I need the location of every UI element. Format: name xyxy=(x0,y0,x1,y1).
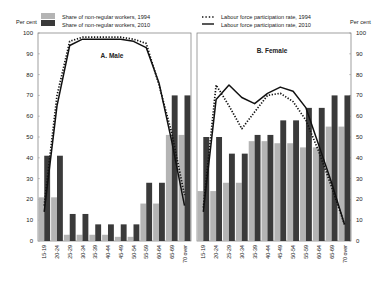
x-tick-label: 60-64 xyxy=(156,245,162,259)
legend-label-bars-1994: Share of non-regular workers, 1994 xyxy=(62,14,150,20)
bar-1994 xyxy=(262,141,268,241)
bar-1994 xyxy=(236,183,242,241)
y-tick-label: 20 xyxy=(26,196,33,202)
right-axis-unit: Per cent xyxy=(350,19,371,25)
x-tick-label: 40-44 xyxy=(105,245,111,259)
bar-2010 xyxy=(108,224,114,241)
right-y-axis-ticks: 0102030405060708090100 xyxy=(349,30,367,244)
panel-female-x-axis-labels: 15-1920-2425-2930-3435-3940-4445-4950-54… xyxy=(200,245,347,263)
panel-female: 15-1920-2425-2930-3435-3940-4445-4950-54… xyxy=(197,33,351,263)
bar-2010 xyxy=(280,120,286,241)
bar-1994 xyxy=(77,235,83,241)
bar-2010 xyxy=(95,224,101,241)
x-tick-label: 40-44 xyxy=(265,245,271,259)
y-tick-label: 30 xyxy=(26,176,33,182)
bar-2010 xyxy=(159,183,165,241)
bar-1994 xyxy=(115,237,121,241)
y-tick-label: 60 xyxy=(356,113,363,119)
bar-1994 xyxy=(300,147,306,241)
bar-2010 xyxy=(184,95,190,241)
bar-1994 xyxy=(89,235,95,241)
x-tick-label: 35-39 xyxy=(92,245,98,259)
line-1994-dotted xyxy=(44,37,184,205)
bar-2010 xyxy=(344,95,350,241)
bar-2010 xyxy=(293,120,299,241)
y-tick-label: 70 xyxy=(26,92,33,98)
x-tick-label: 30-34 xyxy=(239,245,245,259)
bar-1994 xyxy=(210,191,216,241)
bar-1994 xyxy=(274,143,280,241)
bar-1994 xyxy=(102,235,108,241)
legend-swatch-bars-1994 xyxy=(41,13,55,19)
panel-male-bars xyxy=(38,95,190,241)
bar-1994 xyxy=(197,191,203,241)
panel-male: 15-1920-2425-2930-3435-3940-4445-4950-54… xyxy=(38,33,191,263)
y-tick-label: 40 xyxy=(356,155,363,161)
bar-2010 xyxy=(242,154,248,241)
legend-label-bars-2010: Share of non-regular workers, 2010 xyxy=(62,22,150,28)
y-tick-label: 0 xyxy=(30,238,34,244)
x-tick-label: 65-69 xyxy=(169,245,175,259)
legend: Share of non-regular workers, 1994 Share… xyxy=(41,13,311,28)
panel-male-x-axis-labels: 15-1920-2425-2930-3435-3940-4445-4950-54… xyxy=(41,245,187,263)
bar-1994 xyxy=(166,135,172,241)
left-axis-unit: Per cent xyxy=(16,19,37,25)
chart-root: Share of non-regular workers, 1994 Share… xyxy=(0,0,385,283)
y-tick-label: 80 xyxy=(26,72,33,78)
x-tick-label: 25-29 xyxy=(226,245,232,259)
bar-2010 xyxy=(70,214,76,241)
bar-1994 xyxy=(51,197,57,241)
bar-2010 xyxy=(216,137,222,241)
left-y-axis-ticks: 0102030405060708090100 xyxy=(23,30,40,244)
x-tick-label: 65-69 xyxy=(329,245,335,259)
x-tick-label: 55-59 xyxy=(143,245,149,259)
panel-male-title: A. Male xyxy=(101,52,124,59)
y-tick-label: 100 xyxy=(23,30,34,36)
y-tick-label: 90 xyxy=(26,51,33,57)
bar-1994 xyxy=(64,235,70,241)
bar-1994 xyxy=(287,143,293,241)
legend-swatch-bars-2010 xyxy=(41,20,55,26)
x-tick-label: 70 over xyxy=(342,245,348,263)
x-tick-label: 35-39 xyxy=(252,245,258,259)
bar-1994 xyxy=(223,183,229,241)
panel-female-bars xyxy=(197,95,350,241)
bar-2010 xyxy=(319,108,325,241)
x-tick-label: 55-59 xyxy=(303,245,309,259)
bar-1994 xyxy=(140,204,146,241)
bar-2010 xyxy=(121,224,127,241)
y-tick-label: 40 xyxy=(26,155,33,161)
y-tick-label: 0 xyxy=(356,238,360,244)
bar-1994 xyxy=(128,237,134,241)
x-tick-label: 60-64 xyxy=(316,245,322,259)
y-tick-label: 50 xyxy=(26,134,33,140)
bar-2010 xyxy=(306,108,312,241)
y-tick-label: 20 xyxy=(356,196,363,202)
y-tick-label: 70 xyxy=(356,92,363,98)
bar-2010 xyxy=(82,214,88,241)
y-tick-label: 100 xyxy=(356,30,367,36)
y-tick-label: 10 xyxy=(356,217,363,223)
bar-2010 xyxy=(57,156,63,241)
x-tick-label: 45-49 xyxy=(118,245,124,259)
x-tick-label: 20-24 xyxy=(54,245,60,259)
legend-label-line-2010: Labour force participation rate, 2010 xyxy=(221,22,311,28)
y-tick-label: 80 xyxy=(356,72,363,78)
y-tick-label: 50 xyxy=(356,134,363,140)
x-tick-label: 30-34 xyxy=(80,245,86,259)
bar-1994 xyxy=(153,204,159,241)
bar-2010 xyxy=(255,135,261,241)
legend-label-line-1994: Labour force participation rate, 1994 xyxy=(221,14,311,20)
bar-1994 xyxy=(249,141,255,241)
y-tick-label: 90 xyxy=(356,51,363,57)
x-tick-label: 70 over xyxy=(182,245,188,263)
bar-2010 xyxy=(267,135,273,241)
x-tick-label: 15-19 xyxy=(200,245,206,259)
bar-2010 xyxy=(133,224,139,241)
bar-1994 xyxy=(313,147,319,241)
bar-1994 xyxy=(38,197,44,241)
x-tick-label: 25-29 xyxy=(67,245,73,259)
bar-2010 xyxy=(229,154,235,241)
x-tick-label: 50-54 xyxy=(290,245,296,259)
y-tick-label: 60 xyxy=(26,113,33,119)
